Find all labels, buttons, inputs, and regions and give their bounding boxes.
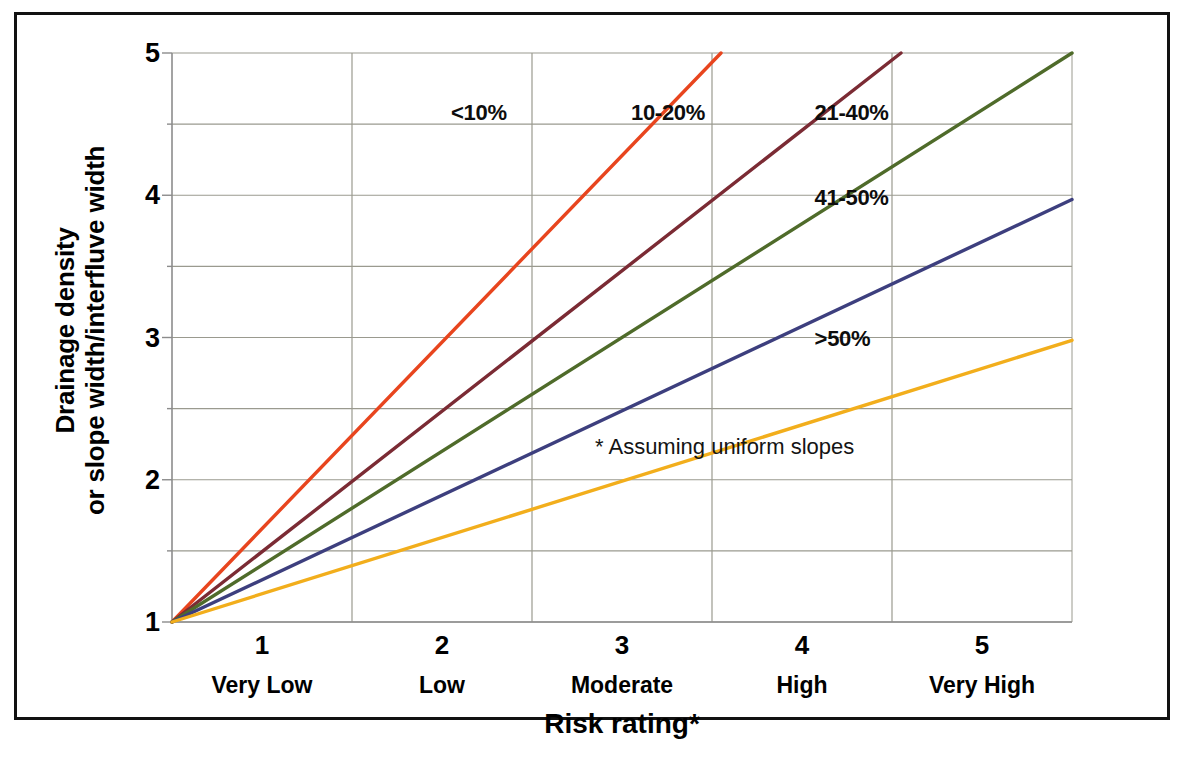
chart-annotation: * Assuming uniform slopes xyxy=(595,434,854,460)
y-tick-label: 4 xyxy=(120,180,160,211)
series-label-3: 41-50% xyxy=(815,185,889,211)
chart-figure: Drainage density or slope width/interflu… xyxy=(0,0,1194,764)
series-label-4: >50% xyxy=(815,326,871,352)
x-category-label: Low xyxy=(347,672,537,699)
y-tick-label: 2 xyxy=(120,464,160,495)
x-category-label: Very Low xyxy=(167,672,357,699)
y-tick-marks xyxy=(162,53,172,622)
x-category-label: Moderate xyxy=(527,672,717,699)
y-tick-label: 1 xyxy=(120,607,160,638)
x-tick-number: 5 xyxy=(922,630,1042,661)
series-label-1: 10-20% xyxy=(631,100,705,126)
series-line-3 xyxy=(172,200,1072,622)
y-tick-label: 5 xyxy=(120,38,160,69)
y-tick-label: 3 xyxy=(120,322,160,353)
x-tick-number: 1 xyxy=(202,630,322,661)
series-label-2: 21-40% xyxy=(815,100,889,126)
x-axis-title: Risk rating* xyxy=(172,708,1072,740)
x-tick-number: 2 xyxy=(382,630,502,661)
series-label-0: <10% xyxy=(451,100,507,126)
x-tick-number: 3 xyxy=(562,630,682,661)
x-category-label: Very High xyxy=(887,672,1077,699)
x-category-label: High xyxy=(707,672,897,699)
x-tick-number: 4 xyxy=(742,630,862,661)
